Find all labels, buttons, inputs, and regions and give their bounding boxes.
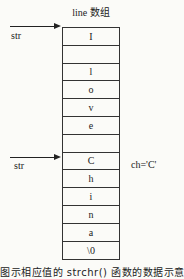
array-cell: e [63, 117, 119, 135]
arrow-head-icon [54, 23, 61, 29]
line-array: I l o v e C h i n a \0 [62, 27, 120, 260]
figure-caption: 图示相应值的 strchr() 函数的数据示意 [0, 264, 169, 279]
array-cell: n [63, 206, 119, 224]
pointer-label-bottom: str [14, 160, 24, 171]
array-cell: v [63, 99, 119, 117]
arrow-head-icon [54, 154, 61, 160]
array-title: line 数组 [62, 4, 120, 19]
pointer-label-top: str [11, 30, 21, 41]
array-cell: i [63, 188, 119, 206]
array-cell: l [63, 64, 119, 82]
array-cell: C [63, 153, 119, 171]
array-cell: o [63, 81, 119, 99]
array-cell: \0 [63, 242, 119, 260]
array-cell: I [63, 28, 119, 46]
array-cell [63, 135, 119, 153]
array-cell: h [63, 170, 119, 188]
array-cell [63, 46, 119, 64]
char-annotation: ch='C' [131, 159, 156, 170]
array-cell: a [63, 224, 119, 242]
pointer-arrow-top [10, 23, 61, 29]
